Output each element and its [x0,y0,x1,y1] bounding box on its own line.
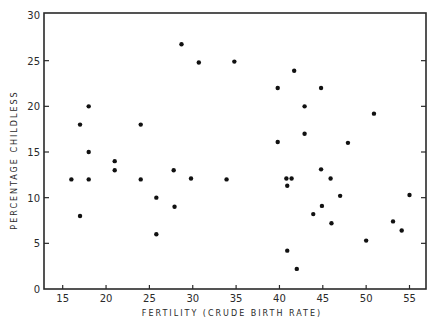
data-point [172,205,176,209]
data-point [372,111,376,115]
data-point [276,140,280,144]
x-axis-ticks: 152025303540455055 [56,285,416,304]
y-tick-label: 0 [34,284,40,295]
data-point [154,195,158,199]
x-tick-label: 40 [273,293,286,304]
scatter-chart: 152025303540455055 051015202530 FERTILIT… [0,0,435,325]
data-point [87,104,91,108]
data-point [87,150,91,154]
plot-border [44,13,426,289]
data-point [292,69,296,73]
data-point [391,219,395,223]
data-point [319,167,323,171]
data-point [179,42,183,46]
y-axis-label: PERCENTAGE CHILDLESS [10,90,19,229]
data-point [139,122,143,126]
data-point [329,221,333,225]
data-point [346,141,350,145]
data-point [189,176,193,180]
data-point [113,159,117,163]
x-tick-label: 35 [230,293,243,304]
data-point [302,104,306,108]
data-point [285,184,289,188]
data-point [224,177,228,181]
data-point [407,193,411,197]
y-tick-label: 15 [27,147,40,158]
data-point [276,86,280,90]
data-point [302,132,306,136]
data-point [284,176,288,180]
data-point [320,204,324,208]
x-tick-label: 25 [143,293,156,304]
data-point [69,177,73,181]
data-point [289,176,293,180]
x-tick-label: 55 [403,293,416,304]
data-point [154,232,158,236]
data-point [285,248,289,252]
x-tick-label: 50 [360,293,373,304]
y-tick-label: 5 [34,238,40,249]
data-point [319,86,323,90]
data-point [399,228,403,232]
x-tick-label: 20 [100,293,113,304]
data-points [69,42,412,271]
data-point [197,60,201,64]
y-tick-label: 20 [27,101,40,112]
data-point [139,177,143,181]
data-point [171,168,175,172]
data-point [295,267,299,271]
x-axis-label: FERTILITY (CRUDE BIRTH RATE) [142,309,322,318]
y-tick-label: 10 [27,193,40,204]
data-point [78,214,82,218]
data-point [328,176,332,180]
data-point [232,59,236,63]
data-point [338,194,342,198]
x-tick-label: 15 [56,293,69,304]
x-tick-label: 45 [316,293,329,304]
data-point [311,212,315,216]
plot-frame [44,13,426,289]
data-point [78,122,82,126]
x-tick-label: 30 [186,293,199,304]
data-point [364,238,368,242]
y-tick-label: 25 [27,56,40,67]
data-point [113,168,117,172]
y-tick-label: 30 [27,10,40,21]
data-point [87,177,91,181]
